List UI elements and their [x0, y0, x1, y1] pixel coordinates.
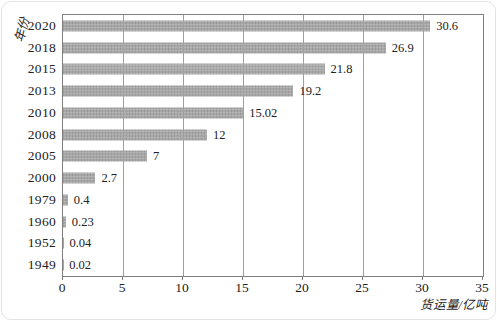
- bar-row-1979: 19790.4: [63, 189, 483, 211]
- y-tick-label: 2005: [28, 148, 56, 164]
- bar-row-2005: 20057: [63, 146, 483, 168]
- y-tick-label: 2015: [28, 61, 56, 77]
- y-tick-label: 2000: [28, 170, 56, 186]
- x-tick-label-0: 0: [59, 280, 66, 296]
- bar-row-2010: 201015.02: [63, 102, 483, 124]
- y-tick-label: 2010: [28, 105, 56, 121]
- bar-value-label: 0.4: [74, 192, 90, 207]
- bar-row-1949: 19490.02: [63, 254, 483, 276]
- y-tick-label: 2013: [28, 83, 56, 99]
- y-tick-label: 1960: [28, 214, 56, 230]
- bar-row-2000: 20002.7: [63, 167, 483, 189]
- bar-row-2013: 201319.2: [63, 80, 483, 102]
- y-tick-label: 1952: [28, 235, 56, 251]
- y-tick-label: 2018: [28, 40, 56, 56]
- bar: [63, 107, 243, 118]
- bar-value-label: 0.04: [69, 236, 91, 251]
- y-tick-label: 2008: [28, 127, 56, 143]
- bar: [63, 151, 147, 162]
- bar-value-label: 7: [153, 149, 159, 164]
- gridline-x-25: [363, 15, 364, 276]
- bar-value-label: 21.8: [331, 62, 353, 77]
- bar-value-label: 26.9: [392, 40, 414, 55]
- x-tick-label-15: 15: [235, 280, 249, 296]
- y-tick-label: 1979: [28, 192, 56, 208]
- bar: [63, 42, 386, 53]
- x-tick-label-35: 35: [475, 280, 489, 296]
- bar-row-2008: 200812: [63, 124, 483, 146]
- freight-volume-bar-chart: 年份 202030.6201826.9201521.8201319.220101…: [0, 0, 497, 321]
- bar-value-label: 12: [213, 127, 226, 142]
- gridline-x-5: [123, 15, 124, 276]
- bar: [63, 20, 430, 31]
- bar: [63, 86, 293, 97]
- bar-value-label: 30.6: [436, 18, 458, 33]
- bar-value-label: 0.02: [69, 258, 91, 273]
- bar-row-1952: 19520.04: [63, 233, 483, 255]
- gridline-x-30: [423, 15, 424, 276]
- bar: [63, 173, 95, 184]
- y-tick-label: 1949: [28, 257, 56, 273]
- x-tick-label-25: 25: [355, 280, 369, 296]
- x-tick-label-20: 20: [295, 280, 309, 296]
- bar: [63, 216, 66, 227]
- bar-row-2018: 201826.9: [63, 37, 483, 59]
- bar: [63, 194, 68, 205]
- bar: [63, 64, 325, 75]
- bar-row-2020: 202030.6: [63, 15, 483, 37]
- x-axis-title: 货运量/亿吨: [420, 294, 488, 313]
- bar-value-label: 0.23: [72, 214, 94, 229]
- x-tick-label-5: 5: [119, 280, 126, 296]
- bar-value-label: 19.2: [299, 84, 321, 99]
- bar-row-1960: 19600.23: [63, 211, 483, 233]
- bar-value-label: 15.02: [249, 105, 277, 120]
- x-tick-label-10: 10: [175, 280, 189, 296]
- gridline-x-10: [183, 15, 184, 276]
- plot-area: 202030.6201826.9201521.8201319.2201015.0…: [62, 14, 484, 277]
- gridline-x-15: [243, 15, 244, 276]
- bar: [63, 129, 207, 140]
- bar-row-2015: 201521.8: [63, 59, 483, 81]
- gridline-x-20: [303, 15, 304, 276]
- y-tick-label: 2020: [28, 18, 56, 34]
- x-tick-label-30: 30: [415, 280, 429, 296]
- bar-value-label: 2.7: [101, 171, 117, 186]
